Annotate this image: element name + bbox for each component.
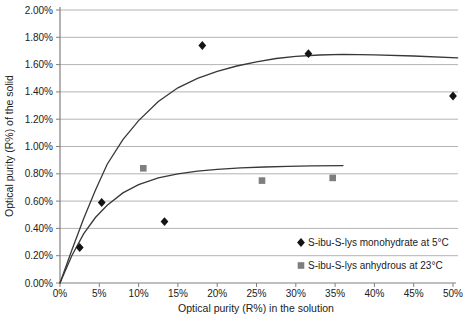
square-marker: [140, 165, 147, 172]
x-tick-label: 30%: [286, 288, 306, 299]
trend-curves: [60, 54, 458, 283]
diamond-marker: [161, 217, 169, 226]
tick-labels: 0%5%10%15%20%25%30%35%40%45%50%0.00%0.20…: [25, 5, 463, 300]
y-tick-label: 1.40%: [25, 86, 53, 97]
y-tick-label: 1.20%: [25, 114, 53, 125]
x-tick-label: 20%: [207, 288, 227, 299]
y-tick-label: 1.60%: [25, 59, 53, 70]
legend-markers: [297, 238, 305, 269]
plot-svg: 0%5%10%15%20%25%30%35%40%45%50%0.00%0.20…: [0, 0, 470, 320]
x-tick-label: 25%: [246, 288, 266, 299]
diamond-marker: [305, 49, 313, 58]
x-axis-title: Optical purity (R%) in the solution: [178, 302, 334, 314]
chart-container: 0%5%10%15%20%25%30%35%40%45%50%0.00%0.20…: [0, 0, 470, 320]
diamond-marker: [449, 92, 457, 101]
x-tick-label: 45%: [404, 288, 424, 299]
y-tick-label: 0.60%: [25, 196, 53, 207]
x-tick-label: 35%: [325, 288, 345, 299]
y-tick-label: 0.40%: [25, 223, 53, 234]
y-tick-label: 1.00%: [25, 141, 53, 152]
y-tick-label: 0.80%: [25, 168, 53, 179]
diamond-marker: [98, 198, 106, 207]
y-tick-label: 0.00%: [25, 278, 53, 289]
legend-label-anhydrous: S-ibu-S-lys anhydrous at 23°C: [308, 260, 443, 271]
x-tick-label: 0%: [53, 288, 68, 299]
trend-curve-monohydrate: [60, 54, 458, 283]
gridlines: [60, 10, 458, 256]
x-tick-label: 40%: [364, 288, 384, 299]
x-tick-label: 50%: [443, 288, 463, 299]
y-axis-title: Optical purity (R%) of the solid: [3, 75, 15, 217]
diamond-marker: [198, 41, 206, 50]
square-marker: [259, 177, 266, 184]
x-tick-label: 10%: [129, 288, 149, 299]
legend-label-monohydrate: S-ibu-S-lys monohydrate at 5°C: [308, 237, 449, 248]
square-marker: [329, 175, 336, 182]
y-tick-label: 0.20%: [25, 250, 53, 261]
legend-diamond-icon: [297, 238, 305, 247]
legend-square-icon: [298, 262, 305, 269]
y-tick-label: 2.00%: [25, 5, 53, 16]
x-tick-label: 5%: [92, 288, 107, 299]
y-tick-label: 1.80%: [25, 32, 53, 43]
x-tick-label: 15%: [168, 288, 188, 299]
diamond-marker: [76, 243, 84, 252]
